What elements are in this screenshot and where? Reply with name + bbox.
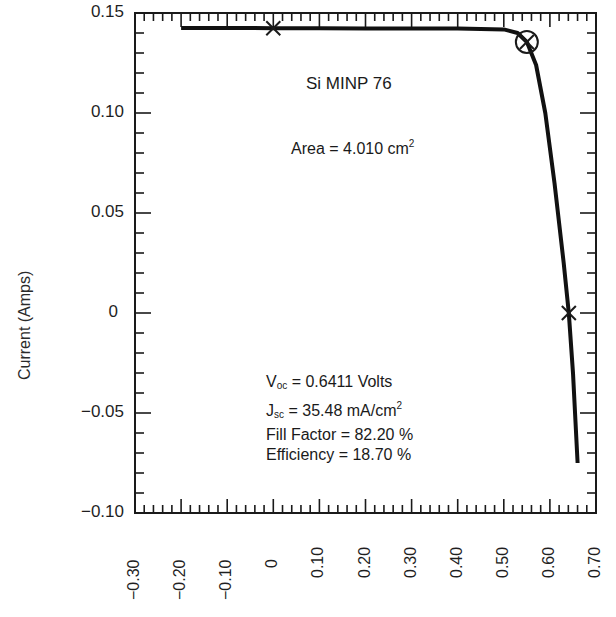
voc-label: Voc = 0.6411 Volts	[266, 372, 413, 396]
voc-symbol: V	[266, 373, 277, 390]
y-tick-label: 0.10	[54, 102, 124, 122]
curve-markers	[266, 21, 576, 320]
y-tick-label: −0.05	[54, 402, 124, 422]
x-tick-label: 0.20	[356, 547, 374, 578]
x-tick-label: −0.20	[171, 560, 189, 600]
fill-factor-label: Fill Factor = 82.20 %	[266, 425, 413, 445]
x-tick-label: −0.10	[217, 560, 235, 600]
voc-sub: oc	[277, 380, 288, 391]
x-tick-label: 0.50	[494, 547, 512, 578]
x-tick-label: 0.40	[448, 547, 466, 578]
x-tick-label: 0.60	[540, 547, 558, 578]
area-label: Area = 4.010 cm2	[291, 134, 414, 159]
stats-block: Voc = 0.6411 Volts Jsc = 35.48 mA/cm2 Fi…	[266, 372, 413, 465]
area-text: Area = 4.010 cm	[291, 140, 409, 157]
y-tick-label: −0.10	[54, 502, 124, 522]
jsc-label: Jsc = 35.48 mA/cm2	[266, 396, 413, 425]
x-tick-label: 0.10	[309, 547, 327, 578]
x-tick-label: 0.30	[402, 547, 420, 578]
jsc-value: = 35.48 mA/cm	[284, 402, 397, 419]
x-tick-label: −0.30	[125, 560, 143, 600]
y-tick-label: 0.15	[54, 2, 124, 22]
voc-value: = 0.6411 Volts	[287, 373, 392, 390]
efficiency-label: Efficiency = 18.70 %	[266, 445, 413, 465]
jsc-sup: 2	[397, 400, 403, 411]
y-tick-label: 0	[48, 302, 118, 322]
y-tick-label: 0.05	[54, 202, 124, 222]
x-tick-label: 0.70	[586, 547, 604, 578]
x-tick-label: 0	[263, 559, 281, 568]
jsc-sub: sc	[274, 409, 284, 420]
area-sup: 2	[409, 138, 415, 149]
jsc-symbol: J	[266, 402, 274, 419]
device-label: Si MINP 76	[306, 74, 392, 94]
y-axis-title: Current (Amps)	[16, 271, 34, 380]
